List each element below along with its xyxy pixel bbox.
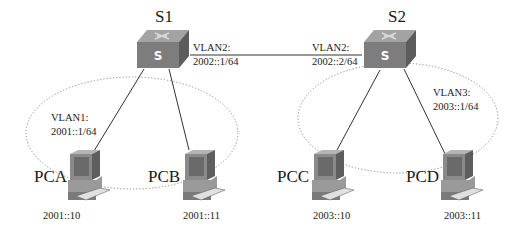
pc-d-icon[interactable]: [439, 148, 487, 204]
link-s1-pcb: [169, 69, 189, 150]
link-s1-pca: [94, 69, 144, 151]
switch-s2-label: S2: [388, 8, 406, 25]
pc-b-icon[interactable]: [181, 148, 229, 204]
pc-a-addr: 2001::10: [43, 210, 80, 222]
s2-vlan2-label: VLAN2:: [312, 42, 349, 54]
switch-s1-label: S1: [155, 8, 173, 25]
switch-s1-icon[interactable]: S: [135, 28, 191, 70]
svg-text:S: S: [381, 49, 390, 63]
network-topology-diagram: S S1 VLAN2: 2002::1/64 S S2 VLAN2: 2002:…: [0, 0, 527, 239]
pc-a-label: PCA: [34, 168, 67, 185]
pc-d-label: PCD: [406, 168, 439, 185]
link-s2-pcd: [404, 69, 448, 160]
pc-c-icon[interactable]: [310, 148, 358, 204]
pc-c-addr: 2003::10: [313, 210, 350, 222]
link-s2-pcc: [337, 70, 380, 150]
s1-vlan2-addr: 2002::1/64: [193, 56, 239, 68]
vlan1-label: VLAN1:: [51, 112, 88, 124]
vlan1-addr: 2001::1/64: [51, 126, 97, 138]
pc-d-addr: 2003::11: [444, 210, 481, 222]
pc-b-addr: 2001::11: [183, 210, 220, 222]
pc-a-icon[interactable]: [66, 148, 114, 204]
s1-vlan2-label: VLAN2:: [193, 42, 230, 54]
vlan3-addr: 2003::1/64: [433, 101, 479, 113]
pc-c-label: PCC: [277, 168, 309, 185]
svg-text:S: S: [154, 49, 163, 63]
pc-b-label: PCB: [148, 168, 180, 185]
s2-vlan2-addr: 2002::2/64: [312, 56, 358, 68]
vlan3-label: VLAN3:: [433, 87, 470, 99]
switch-s2-icon[interactable]: S: [362, 28, 418, 70]
